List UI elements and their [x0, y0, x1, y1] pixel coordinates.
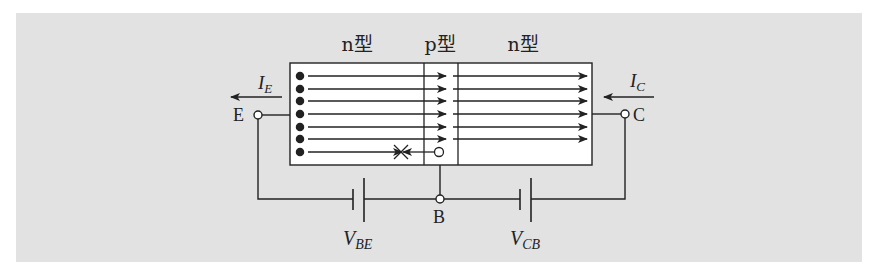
battery-vbe	[353, 178, 364, 222]
vbe-label: VBE	[343, 227, 373, 252]
collector-current-label: IC	[629, 70, 645, 94]
region-label-collector: n型	[507, 33, 538, 55]
emitter-current-label: IE	[257, 72, 272, 96]
electron-dot	[296, 148, 303, 155]
electron-dot	[296, 123, 303, 130]
transistor-diagram: n型 p型 n型	[0, 0, 877, 274]
vcb-label: VCB	[510, 227, 541, 252]
electron-dot	[296, 85, 303, 92]
electron-dot	[296, 97, 303, 104]
terminal-label-emitter: E	[233, 105, 244, 125]
terminal-emitter	[254, 111, 262, 119]
terminal-collector	[621, 110, 629, 118]
electron-dot	[296, 72, 303, 79]
hole	[435, 148, 444, 157]
electron-dot	[296, 110, 303, 117]
terminal-base	[436, 195, 444, 203]
terminal-label-base: B	[433, 207, 445, 227]
terminal-label-collector: C	[633, 105, 645, 125]
electron-dot	[296, 135, 303, 142]
region-label-base: p型	[424, 33, 455, 55]
battery-vcb	[520, 178, 531, 222]
region-label-emitter: n型	[341, 33, 372, 55]
